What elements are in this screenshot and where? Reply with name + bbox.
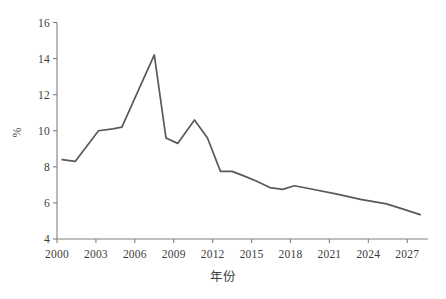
y-axis-tick-label: 8 xyxy=(24,161,50,173)
y-axis-ticks xyxy=(53,23,57,240)
y-axis-tick-label: 16 xyxy=(24,17,50,29)
line-chart: 46810121416 2000200320062009201220152018… xyxy=(0,0,446,299)
x-axis-tick-label: 2027 xyxy=(395,248,419,260)
y-axis-tick-label: 4 xyxy=(24,233,50,245)
x-axis-tick-label: 2006 xyxy=(123,248,147,260)
x-axis-tick-label: 2021 xyxy=(318,248,342,260)
y-axis-tick-label: 12 xyxy=(24,89,50,101)
x-axis-tick-label: 2000 xyxy=(45,248,69,260)
x-axis-tick-label: 2009 xyxy=(162,248,186,260)
x-axis-tick-label: 2003 xyxy=(84,248,108,260)
y-axis-tick-label: 14 xyxy=(24,53,50,65)
chart-axes xyxy=(57,23,428,240)
y-axis-title: % xyxy=(10,128,25,138)
y-axis-tick-label: 6 xyxy=(24,197,50,209)
x-axis-ticks xyxy=(57,239,407,243)
x-axis-tick-label: 2012 xyxy=(201,248,225,260)
x-axis-tick-label: 2018 xyxy=(279,248,303,260)
x-axis-tick-label: 2024 xyxy=(356,248,380,260)
y-axis-tick-label: 10 xyxy=(24,125,50,137)
x-axis-title: 年份 xyxy=(0,266,446,285)
x-axis-tick-label: 2015 xyxy=(240,248,264,260)
data-series-line xyxy=(62,55,420,215)
